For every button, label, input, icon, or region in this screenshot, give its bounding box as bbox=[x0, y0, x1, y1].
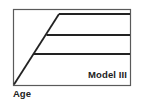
x-axis-label: Age bbox=[13, 88, 31, 99]
model-diagram: Model III Age bbox=[0, 0, 141, 106]
growth-diagonal-line bbox=[14, 14, 59, 85]
model-title-label: Model III bbox=[87, 69, 127, 80]
